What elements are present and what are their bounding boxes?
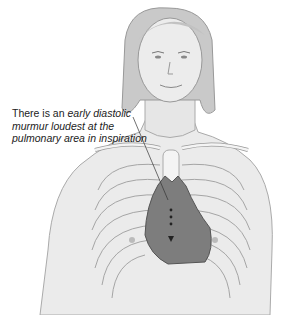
annotation-label: There is an early diastolic murmur loude… xyxy=(12,107,152,145)
anatomical-illustration xyxy=(0,0,287,315)
torso-drawing xyxy=(0,0,287,315)
annotation-prefix: There is an xyxy=(12,107,67,119)
